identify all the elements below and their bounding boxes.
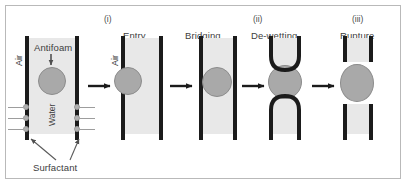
- surfactant-tail: [80, 118, 95, 119]
- water-film-dewetting-top: [272, 38, 298, 68]
- surfactant-leader-arrow-left: [31, 139, 56, 160]
- stage-roman-iii: (iii): [352, 14, 363, 24]
- surfactant-head: [23, 126, 29, 132]
- surfactant-tail: [80, 129, 95, 130]
- water-film-rupture-top: [345, 38, 371, 62]
- surfactant-head: [23, 104, 29, 110]
- surfactant-tail: [8, 118, 23, 119]
- air-water-interface-right-initial: [75, 36, 79, 140]
- surfactant-tail: [8, 107, 23, 108]
- label-air-initial: Air: [14, 55, 24, 66]
- water-film-rupture-bottom: [345, 104, 371, 134]
- stage-roman-ii: (ii): [253, 14, 262, 24]
- antifoam-droplet-initial: [38, 67, 66, 95]
- air-water-interface-right-bridging: [233, 36, 237, 140]
- water-film-dewetting-bottom: [272, 98, 298, 134]
- surfactant-tail: [80, 107, 95, 108]
- label-water: Water: [47, 104, 57, 126]
- surfactant-tail: [8, 129, 23, 130]
- stage-roman-i: (i): [104, 14, 112, 24]
- air-water-interface-right-rupture-top: [369, 36, 373, 62]
- surfactant-head: [23, 115, 29, 121]
- air-water-interface-left-initial: [25, 36, 29, 140]
- antifoam-droplet-rupture: [340, 64, 374, 102]
- air-water-interface-left-rupture-bottom: [343, 104, 347, 140]
- surfactant-leader-arrow-right: [70, 139, 79, 160]
- antifoam-droplet-entry: [114, 67, 142, 95]
- antifoam-mechanism-figure: (i) (ii) (iii) Entry Bridging De-wetting…: [0, 0, 408, 186]
- label-air-entry: Air: [110, 55, 120, 66]
- air-water-interface-right-rupture-bottom: [369, 104, 373, 140]
- label-surfactant: Surfactant: [33, 162, 77, 173]
- antifoam-droplet-bridging: [202, 67, 232, 97]
- air-water-interface-right-entry: [159, 36, 163, 140]
- air-water-interface-left-rupture-top: [343, 36, 347, 62]
- figure-stage: (i) (ii) (iii) Entry Bridging De-wetting…: [0, 0, 408, 186]
- label-antifoam: Antifoam: [34, 42, 72, 53]
- antifoam-droplet-dewetting: [268, 65, 302, 99]
